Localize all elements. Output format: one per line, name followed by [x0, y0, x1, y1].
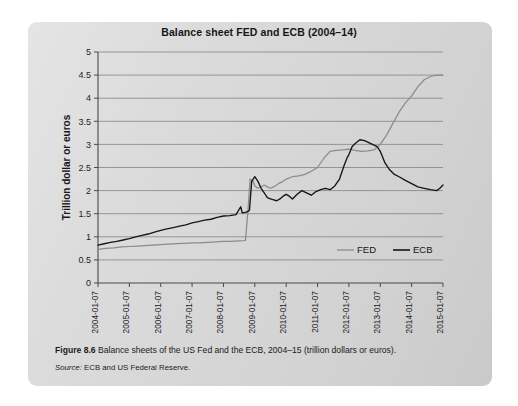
svg-text:2005-01-07: 2005-01-07: [121, 291, 131, 334]
svg-text:1.5: 1.5: [78, 209, 91, 219]
svg-text:2.5: 2.5: [78, 163, 91, 173]
gridlines: [98, 52, 443, 260]
x-axis-ticks: [98, 283, 443, 287]
source-text: ECB and US Federal Reserve.: [84, 363, 190, 372]
svg-text:2007-01-07: 2007-01-07: [184, 291, 194, 334]
svg-text:2010-01-07: 2010-01-07: [278, 291, 288, 334]
svg-text:2014-01-07: 2014-01-07: [404, 291, 414, 334]
svg-text:2004-01-07: 2004-01-07: [90, 291, 100, 334]
chart-legend: FEDECB: [337, 244, 433, 255]
svg-text:2013-01-07: 2013-01-07: [372, 291, 382, 334]
svg-text:0: 0: [86, 278, 91, 288]
y-axis-tick-labels: 54.543.532.521.510.50: [78, 47, 91, 288]
x-axis-tick-labels: 2004-01-072005-01-072006-01-072007-01-07…: [90, 291, 445, 334]
svg-text:2006-01-07: 2006-01-07: [153, 291, 163, 334]
svg-text:4: 4: [86, 93, 91, 103]
y-axis-title: Trillion dollar or euros: [61, 114, 72, 220]
svg-text:2011-01-07: 2011-01-07: [310, 291, 320, 333]
figure-number: Figure 8.6: [55, 345, 96, 355]
svg-text:2009-01-07: 2009-01-07: [247, 291, 257, 334]
svg-text:1: 1: [86, 232, 91, 242]
svg-text:0.5: 0.5: [78, 255, 91, 265]
svg-text:2: 2: [86, 186, 91, 196]
svg-text:2008-01-07: 2008-01-07: [215, 291, 225, 334]
svg-text:ECB: ECB: [413, 244, 433, 255]
svg-text:5: 5: [86, 47, 91, 57]
svg-text:2012-01-07: 2012-01-07: [341, 291, 351, 334]
svg-text:4.5: 4.5: [78, 70, 91, 80]
svg-text:3.5: 3.5: [78, 117, 91, 127]
figure-source: Source: ECB and US Federal Reserve.: [55, 363, 470, 372]
figure-caption: Figure 8.6 Balance sheets of the US Fed …: [55, 345, 470, 357]
svg-text:3: 3: [86, 140, 91, 150]
y-axis-ticks: [94, 52, 98, 283]
svg-text:FED: FED: [357, 244, 376, 255]
series-line-fed: [98, 75, 443, 249]
svg-text:2015-01-07: 2015-01-07: [435, 291, 445, 334]
figure-caption-text: Balance sheets of the US Fed and the ECB…: [98, 345, 396, 355]
source-label: Source:: [55, 363, 82, 372]
series-line-ecb: [98, 140, 443, 245]
